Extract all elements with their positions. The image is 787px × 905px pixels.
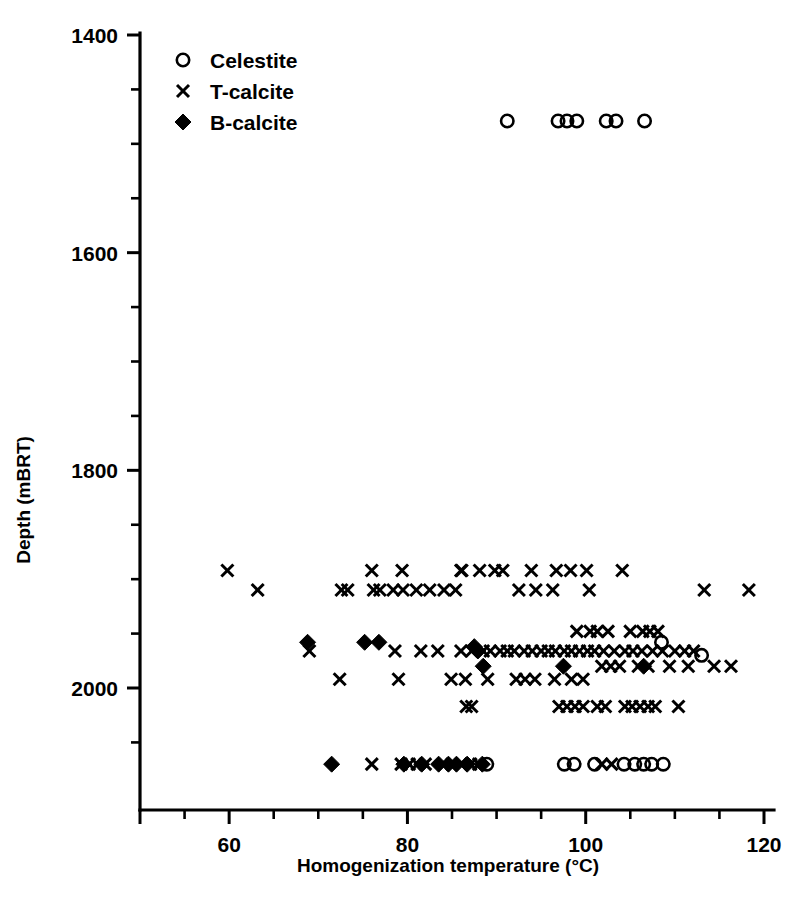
y-tick-label: 1400 [71, 24, 118, 47]
x-tick-label: 60 [217, 833, 240, 856]
point-celestite [501, 115, 513, 127]
point-b-calcite [555, 658, 571, 674]
point-b-calcite [324, 756, 340, 772]
legend-label: Celestite [210, 49, 298, 72]
legend-label: B-calcite [210, 111, 298, 134]
y-axis-label: Depth (mBRT) [13, 436, 34, 564]
point-celestite [638, 115, 650, 127]
tick-labels-group: 14001600180020006080100120 [71, 24, 781, 856]
legend-group: CelestiteT-calciteB-calcite [175, 49, 298, 134]
point-b-calcite [475, 658, 491, 674]
x-tick-label: 80 [396, 833, 419, 856]
legend-label: T-calcite [210, 80, 294, 103]
data-points-group [221, 115, 754, 772]
point-b-calcite [371, 634, 387, 650]
legend-entry-b-calcite: B-calcite [175, 111, 298, 134]
x-tick-label: 120 [746, 833, 781, 856]
legend-entry-t-calcite: T-calcite [177, 80, 294, 103]
y-tick-label: 2000 [71, 677, 118, 700]
scatter-plot-figure: 14001600180020006080100120 CelestiteT-ca… [0, 0, 787, 905]
point-b-calcite [636, 658, 652, 674]
legend-marker-filled-diamond-icon [175, 114, 191, 130]
x-axis-label: Homogenization temperature (°C) [297, 855, 599, 876]
y-tick-label: 1800 [71, 459, 118, 482]
plot-canvas: 14001600180020006080100120 CelestiteT-ca… [0, 0, 787, 905]
legend-marker-open-circle-icon [177, 54, 189, 66]
point-b-calcite [414, 756, 430, 772]
x-tick-label: 100 [568, 833, 603, 856]
y-tick-label: 1600 [71, 242, 118, 265]
legend-entry-celestite: Celestite [177, 49, 298, 72]
point-b-calcite [396, 756, 412, 772]
